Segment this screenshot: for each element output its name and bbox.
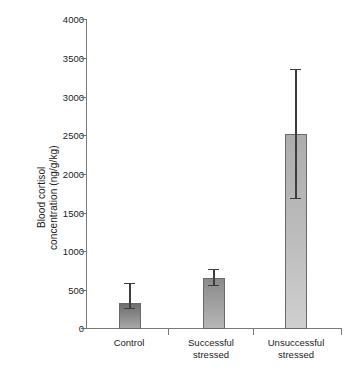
y-tick-label-1000: 1000 [46, 247, 84, 257]
y-tick-label-1500: 1500 [46, 209, 84, 219]
chart-figure: Blood cortisol concentration (ng/g/kg) 4… [0, 0, 355, 374]
error-bar-line-successful-stressed [213, 269, 214, 286]
x-category-unsuccessful-stressed-line-1: Unsuccessful [253, 337, 339, 349]
error-bar-line-control [129, 283, 130, 309]
x-category-unsuccessful-stressed: Unsuccessful stressed [253, 337, 339, 361]
y-axis-tick-labels: 4000 3500 3000 2500 2000 1500 1000 500 0 [44, 0, 84, 374]
x-category-unsuccessful-stressed-line-2: stressed [253, 349, 339, 361]
y-tick-label-3500: 3500 [46, 54, 84, 64]
x-axis-separator-1 [168, 329, 169, 335]
y-tick-label-2000: 2000 [46, 170, 84, 180]
x-axis-separator-2 [253, 329, 254, 335]
plot-area [86, 19, 342, 329]
error-bar-cap-upper-successful-stressed [208, 269, 219, 270]
y-tick-label-0: 0 [46, 324, 84, 334]
x-category-control: Control [86, 337, 172, 349]
error-bar-cap-lower-unsuccessful-stressed [290, 198, 301, 199]
error-bar-cap-lower-successful-stressed [208, 285, 219, 286]
x-axis-separator-3 [341, 329, 342, 335]
x-category-successful-stressed-line-1: Successful [168, 337, 254, 349]
error-bar-cap-upper-control [124, 283, 135, 284]
y-tick-label-4000: 4000 [46, 15, 84, 25]
x-category-successful-stressed: Successful stressed [168, 337, 254, 361]
y-tick-label-2500: 2500 [46, 131, 84, 141]
x-category-successful-stressed-line-2: stressed [168, 349, 254, 361]
y-tick-label-3000: 3000 [46, 93, 84, 103]
error-bar-line-unsuccessful-stressed [295, 69, 296, 199]
x-category-control-line-1: Control [86, 337, 172, 349]
y-tick-label-500: 500 [46, 286, 84, 296]
error-bar-cap-lower-control [124, 308, 135, 309]
error-bar-cap-upper-unsuccessful-stressed [290, 69, 301, 70]
